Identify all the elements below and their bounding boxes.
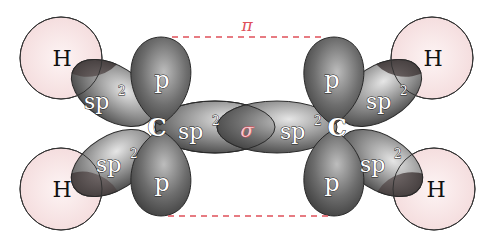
sigma-label: σ xyxy=(241,119,255,141)
sp2-label-superscript: 2 xyxy=(314,114,322,128)
p-label-top-left: p xyxy=(154,66,169,94)
pi-label: π xyxy=(240,15,253,35)
sp2-label-superscript: 2 xyxy=(212,114,220,128)
h-label-top-left: H xyxy=(52,46,71,71)
sp2-label-superscript: 2 xyxy=(400,84,408,98)
sp2-label-text: sp xyxy=(360,152,385,177)
h-label-bottom-left: H xyxy=(52,177,71,202)
sp2-label-superscript: 2 xyxy=(130,147,138,161)
h-label-top-right: H xyxy=(423,46,442,71)
carbon-label-right: C xyxy=(327,113,346,142)
sp2-label-text: sp xyxy=(178,119,203,144)
p-label-bottom-left: p xyxy=(154,169,169,197)
sp2-label-text: sp xyxy=(96,152,121,177)
p-label-top-right: p xyxy=(324,66,339,94)
ethylene-orbital-diagram: π σ H H H H p p p p C C sp 2 sp 2 sp 2 s… xyxy=(0,0,491,248)
carbon-label-left: C xyxy=(147,113,166,142)
h-label-bottom-right: H xyxy=(426,177,445,202)
sp2-label-superscript: 2 xyxy=(118,84,126,98)
sp2-label-superscript: 2 xyxy=(394,147,402,161)
p-label-bottom-right: p xyxy=(324,169,339,197)
sp2-label-text: sp xyxy=(84,89,109,114)
sp2-label-text: sp xyxy=(280,119,305,144)
sp2-label-text: sp xyxy=(366,89,391,114)
